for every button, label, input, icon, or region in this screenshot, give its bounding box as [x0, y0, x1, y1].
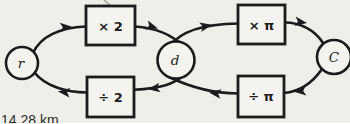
node-label-d: d	[171, 52, 180, 68]
scanned-diagram-page: r d C × 2 ÷ 2 × π ÷ π 14.28 km	[0, 0, 350, 123]
caption-distance-value: 14.28 km	[1, 112, 59, 124]
operator-label-divide-2: ÷ 2	[98, 90, 122, 105]
operator-label-times-pi: × π	[249, 18, 275, 33]
operator-label-divide-pi: ÷ π	[248, 89, 274, 104]
operator-label-times-2: × 2	[98, 19, 122, 34]
node-label-C: C	[329, 49, 340, 65]
conversion-diagram: r d C × 2 ÷ 2 × π ÷ π 14.28 km	[0, 0, 350, 123]
